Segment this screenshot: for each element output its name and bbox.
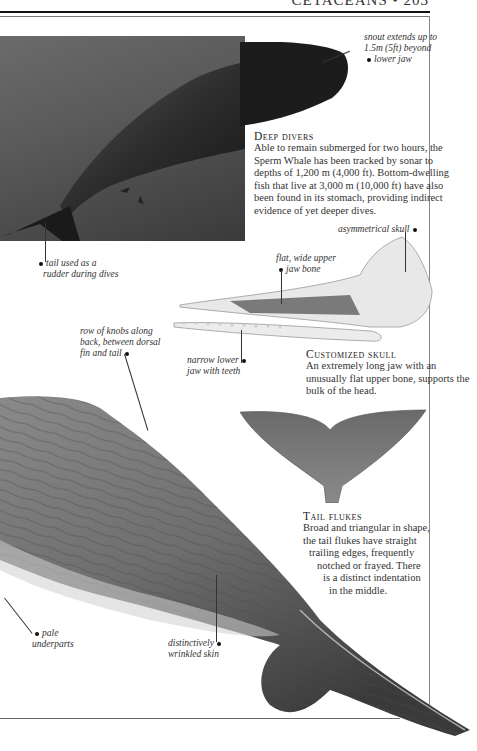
wrinkled-skin-leader: [216, 575, 217, 642]
knobs-line-2: back, between dorsal: [80, 337, 160, 348]
lower-jaw-line-2: jaw with teeth: [187, 366, 249, 377]
callout-dot-icon: [39, 262, 43, 266]
tail-leader-line: [45, 222, 46, 262]
snout-callout-line-3: lower jaw: [374, 54, 412, 64]
upper-jaw-leader: [281, 270, 282, 304]
snout-callout-line-1: snout extends up to: [364, 32, 474, 43]
deep-divers-section: Deep divers Able to remain submerged for…: [254, 130, 454, 217]
underparts-line-2: underparts: [32, 639, 74, 650]
asymmetrical-skull-callout: asymmetrical skull: [338, 224, 420, 235]
asymmetrical-skull-label: asymmetrical skull: [338, 224, 410, 234]
sperm-whale-photo: [0, 36, 245, 241]
skin-line-2: wrinkled skin: [168, 649, 224, 660]
frame-top-rule: [0, 16, 430, 17]
callout-dot-icon: [242, 359, 246, 363]
knobs-line-3: fin and tail: [80, 348, 122, 358]
knobs-line-1: row of knobs along: [80, 326, 160, 337]
upper-jaw-callout: flat, wide upper jaw bone: [276, 253, 336, 275]
underparts-line-1: pale: [42, 628, 58, 638]
tail-callout-line-1: tail used as a: [46, 258, 96, 268]
dorsal-knobs-callout: row of knobs along back, between dorsal …: [80, 326, 160, 359]
deep-divers-heading: Deep divers: [254, 130, 454, 142]
running-head: CETACEANS • 203: [292, 0, 429, 9]
whale-body-illustration: [0, 390, 477, 751]
skin-line-1: distinctively: [168, 638, 214, 648]
customized-skull-heading: Customized skull: [306, 348, 476, 360]
asymmetrical-skull-leader: [405, 232, 406, 272]
whale-head-overlay: [240, 42, 350, 132]
upper-jaw-line-2: jaw bone: [286, 264, 321, 274]
lower-jaw-line-1: narrow lower: [187, 355, 239, 365]
header-rule: [0, 11, 430, 13]
callout-dot-icon: [367, 58, 371, 62]
pale-underparts-callout: pale underparts: [32, 628, 74, 650]
snout-callout: snout extends up to 1.5m (5ft) beyond lo…: [364, 32, 474, 65]
deep-divers-body: Able to remain submerged for two hours, …: [254, 142, 454, 217]
whale-photo-graphic: [0, 36, 245, 241]
wrinkled-skin-callout: distinctively wrinkled skin: [168, 638, 224, 660]
snout-callout-line-2: 1.5m (5ft) beyond: [364, 43, 474, 54]
callout-dot-icon: [413, 228, 417, 232]
tail-callout-line-2: rudder during dives: [41, 269, 151, 280]
upper-jaw-line-1: flat, wide upper: [276, 253, 336, 264]
callout-dot-icon: [217, 642, 221, 646]
lower-jaw-callout: narrow lower jaw with teeth: [187, 355, 249, 377]
skull-illustration: [170, 235, 440, 345]
tail-callout: tail used as a rudder during dives: [41, 258, 151, 280]
callout-dot-icon: [35, 632, 39, 636]
